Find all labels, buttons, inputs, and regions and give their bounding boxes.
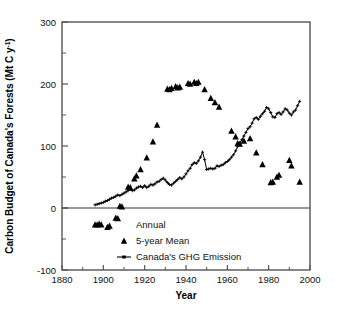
x-tick-label: 1960 (217, 274, 238, 285)
five-year-mean-marker (144, 154, 150, 160)
x-tick-label: 2000 (299, 274, 320, 285)
five-year-mean-marker (208, 95, 214, 101)
legend-marker-triangle (121, 238, 127, 244)
y-tick-label: 0 (51, 203, 56, 214)
five-year-mean-marker (137, 166, 143, 172)
y-tick-label: 100 (40, 141, 56, 152)
x-tick-label: 1940 (175, 274, 196, 285)
five-year-mean-marker (259, 161, 265, 167)
figure-container: -100010020030018801900192019401960198020… (0, 0, 338, 318)
y-axis-title: Carbon Budget of Canada's Forests (Mt C … (4, 38, 16, 253)
five-year-mean-marker (288, 162, 294, 168)
five-year-mean-marker (201, 86, 207, 92)
five-year-mean-marker (286, 157, 292, 163)
five-year-mean-marker (253, 149, 259, 155)
carbon-budget-chart: -100010020030018801900192019401960198020… (0, 0, 338, 318)
x-tick-label: 1980 (258, 274, 279, 285)
legend-label: Annual (136, 219, 166, 230)
y-tick-label: 200 (40, 79, 56, 90)
y-tick-label: 300 (40, 17, 56, 28)
five-year-mean-marker (133, 172, 139, 178)
five-year-mean-marker (296, 178, 302, 184)
x-tick-label: 1900 (93, 274, 114, 285)
plot-frame (62, 22, 310, 270)
x-tick-label: 1920 (134, 274, 155, 285)
x-axis-title: Year (175, 290, 196, 301)
five-year-mean-marker (232, 133, 238, 139)
five-year-mean-marker (150, 138, 156, 144)
x-tick-label: 1880 (51, 274, 72, 285)
legend-label: 5-year Mean (136, 235, 189, 246)
legend-label: Canada's GHG Emission (136, 251, 241, 262)
svg-text:Carbon Budget of Canada's Fore: Carbon Budget of Canada's Forests (Mt C … (4, 38, 16, 253)
five-year-mean-marker (154, 121, 160, 127)
five-year-mean-marker (228, 128, 234, 134)
five-year-mean-marker (247, 135, 253, 141)
